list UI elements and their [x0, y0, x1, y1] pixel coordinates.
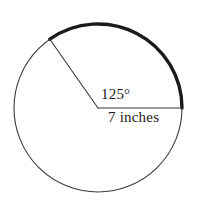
geometry-svg	[0, 0, 198, 220]
radius-line-angled	[50, 39, 98, 108]
central-angle-label: 125°	[101, 87, 130, 102]
radius-length-label: 7 inches	[108, 110, 159, 125]
circle-sector-figure: 125° 7 inches	[0, 0, 198, 220]
